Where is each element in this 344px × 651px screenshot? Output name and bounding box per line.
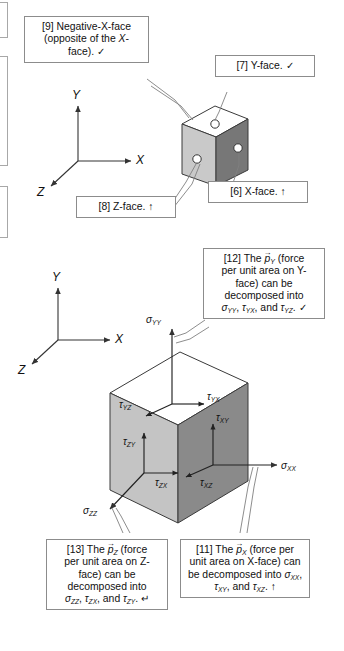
callout-12[interactable]: [12] The →pY (force per unit area on Y- … [203, 248, 325, 319]
top-cube-y-dot [211, 120, 219, 128]
stress-label-sigma-zz: σZZ [83, 505, 97, 516]
callout-13-mark: ↵ [141, 593, 149, 605]
bottom-axis-label-y: Y [52, 270, 60, 284]
callout-12-line1: [12] The →pY (force [209, 253, 319, 265]
callout-12-mark: ✓ [299, 302, 307, 314]
callout-9[interactable]: [9] Negative-X-face (opposite of the X- … [24, 16, 149, 63]
leader-callout-12 [174, 320, 205, 337]
stress-label-tau-xy: τXY [216, 412, 229, 423]
leader-callout-9 [147, 79, 189, 118]
figure-canvas: Y X Z [9] Negative-X-face (opposite of t… [0, 0, 344, 651]
callout-13-line5: σZZ, τZX, and τZY. ↵ [52, 593, 162, 605]
top-axes-triad [51, 106, 131, 186]
callout-13-line2: per unit area on Z- [52, 556, 162, 568]
callout-7-text: [7] Y-face. [236, 60, 282, 71]
top-cube-z-dot [193, 155, 201, 163]
callout-11-line1: [11] The →pX (force per [186, 544, 304, 556]
stress-label-tau-yz: τYZ [119, 399, 131, 410]
bottom-axis-label-z: Z [18, 363, 25, 377]
callout-11[interactable]: [11] The →pX (force per unit area on X-f… [180, 539, 310, 598]
top-cube [182, 106, 248, 186]
callout-11-line2: unit area on X-face) can [186, 556, 304, 568]
top-cube-x-dot [234, 144, 242, 152]
callout-13-line1: [13] The →pZ (force [52, 544, 162, 556]
stress-label-sigma-yy: σYY [146, 314, 161, 325]
callout-6-mark: ↑ [281, 186, 286, 198]
callout-11-mark: ↑ [271, 581, 276, 593]
callout-13-line3: face) can be [52, 569, 162, 581]
callout-7[interactable]: [7] Y-face. ✓ [215, 55, 315, 77]
stress-label-tau-zy: τZY [123, 436, 135, 447]
edge-stub-top [0, 2, 8, 38]
callout-13[interactable]: [13] The →pZ (force per unit area on Z- … [46, 539, 168, 610]
edge-stub-middle [0, 56, 8, 166]
leader-callout-13b [116, 508, 130, 533]
stress-label-tau-xz: τXZ [200, 477, 212, 488]
bottom-axis-label-x: X [115, 332, 123, 346]
callout-8-text: [8] Z-face. [99, 201, 146, 212]
callout-8-mark: ↑ [148, 201, 153, 213]
callout-6[interactable]: [6] X-face. ↑ [208, 181, 308, 203]
stress-label-sigma-xx: σXX [281, 460, 296, 471]
callout-8[interactable]: [8] Z-face. ↑ [76, 196, 176, 218]
callout-7-mark: ✓ [286, 60, 294, 72]
top-axis-label-y: Y [72, 88, 80, 102]
top-axis-label-z: Z [37, 185, 44, 199]
top-axis-label-x: X [136, 153, 144, 167]
callout-9-line1: [9] Negative-X-face [30, 21, 143, 33]
callout-12-line2: per unit area on Y- [209, 265, 319, 277]
callout-9-line2: (opposite of the X- [30, 33, 143, 45]
callout-12-line4: decomposed into [209, 290, 319, 302]
callout-11-line4: τXY, and τXZ. ↑ [186, 581, 304, 593]
callout-13-line4: decomposed into [52, 581, 162, 593]
callout-12-line3: face) can be [209, 278, 319, 290]
callout-9-line3: face). ✓ [30, 46, 143, 58]
leader-callout-11b [247, 467, 258, 533]
edge-stub-lower [0, 186, 8, 238]
callout-12-line5: σYY, τYX, and τYZ. ✓ [209, 302, 319, 314]
bottom-axes-triad [32, 288, 110, 364]
callout-11-line3: be decomposed into σXX, [186, 569, 304, 581]
stress-label-tau-yx: τYX [207, 391, 220, 402]
callout-6-text: [6] X-face. [230, 186, 277, 197]
callout-9-mark: ✓ [97, 46, 105, 58]
stress-label-tau-zx: τZX [155, 477, 167, 488]
leader-callout-13 [112, 508, 123, 533]
